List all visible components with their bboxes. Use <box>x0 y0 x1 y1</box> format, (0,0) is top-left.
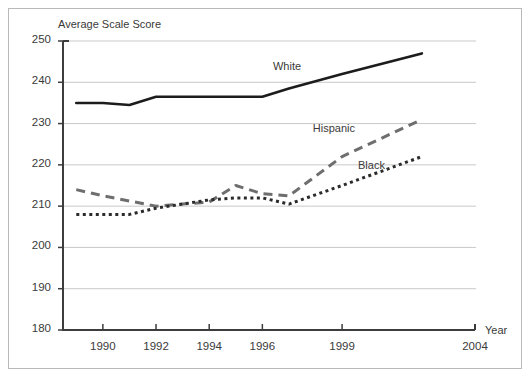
series-annotation-white: White <box>273 60 301 72</box>
y-tick-label: 210 <box>21 198 51 210</box>
x-tick-label: 2004 <box>452 340 498 352</box>
y-tick-label: 220 <box>21 157 51 169</box>
x-tick-label: 1999 <box>319 340 365 352</box>
series-annotation-black: Black <box>358 159 385 171</box>
x-axis-title: Year <box>485 324 507 336</box>
y-tick-label: 190 <box>21 281 51 293</box>
y-tick-label: 230 <box>21 116 51 128</box>
y-tick-label: 180 <box>21 322 51 334</box>
figure-container: Average Scale Score Year 180190200210220… <box>0 0 530 377</box>
x-tick-label: 1992 <box>133 340 179 352</box>
y-axis-title: Average Scale Score <box>58 18 161 30</box>
y-tick-label: 200 <box>21 239 51 251</box>
x-tick-label: 1990 <box>80 340 126 352</box>
y-tick-label: 240 <box>21 74 51 86</box>
axis-spines <box>63 41 475 330</box>
x-tick-label: 1996 <box>239 340 285 352</box>
line-chart-canvas <box>0 0 530 377</box>
series-line-white <box>76 53 422 105</box>
series-annotation-hispanic: Hispanic <box>313 122 355 134</box>
x-tick-label: 1994 <box>186 340 232 352</box>
y-tick-label: 250 <box>21 33 51 45</box>
